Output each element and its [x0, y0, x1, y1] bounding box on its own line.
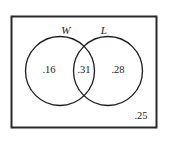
- set-label-l: L: [101, 25, 107, 36]
- value-intersection: .31: [78, 65, 91, 76]
- venn-diagram: W L .16 .31 .28 .25: [0, 0, 169, 144]
- set-label-w: W: [61, 25, 70, 36]
- value-outside-sets: .25: [134, 111, 147, 122]
- value-l-only: .28: [112, 65, 125, 76]
- value-w-only: .16: [43, 65, 56, 76]
